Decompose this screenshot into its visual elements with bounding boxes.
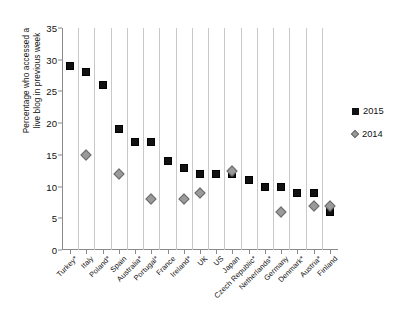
data-point-2015 [82, 68, 90, 76]
vertical-gridline [176, 28, 177, 250]
x-tick-mark [265, 250, 266, 254]
vertical-gridline [224, 28, 225, 250]
legend-label-2014: 2014 [362, 129, 383, 139]
data-point-2015 [277, 183, 285, 191]
y-axis-line [62, 28, 63, 250]
vertical-gridline [127, 28, 128, 250]
x-tick-mark [184, 250, 185, 254]
y-tick-mark [58, 218, 62, 219]
y-tick-mark [58, 123, 62, 124]
vertical-gridline [192, 28, 193, 250]
vertical-gridline [322, 28, 323, 250]
data-point-2015 [164, 157, 172, 165]
x-tick-mark [70, 250, 71, 254]
chart-legend: 2015 2014 [352, 106, 384, 152]
y-tick-mark [58, 28, 62, 29]
y-axis-title-line-2: live blog in previous week [32, 0, 43, 181]
x-tick-mark [232, 250, 233, 254]
data-point-2015 [261, 183, 269, 191]
vertical-gridline [94, 28, 95, 250]
x-tick-mark [119, 250, 120, 254]
y-tick-mark [58, 59, 62, 60]
vertical-gridline [208, 28, 209, 250]
x-tick-mark [103, 250, 104, 254]
vertical-gridline [78, 28, 79, 250]
plot-area: 05101520253035 [62, 28, 338, 250]
legend-entry-2014: 2014 [352, 129, 384, 139]
vertical-gridline [143, 28, 144, 250]
vertical-gridline [241, 28, 242, 250]
x-axis-label: Turkey* [55, 254, 80, 279]
data-point-2015 [212, 170, 220, 178]
data-point-2014 [194, 187, 205, 198]
data-point-2015 [196, 170, 204, 178]
x-tick-mark [168, 250, 169, 254]
y-tick-label: 5 [52, 213, 57, 224]
legend-entry-2015: 2015 [352, 106, 384, 116]
x-tick-mark [249, 250, 250, 254]
x-tick-mark [135, 250, 136, 254]
vertical-gridline [159, 28, 160, 250]
y-tick-label: 0 [52, 245, 57, 256]
vertical-gridline [306, 28, 307, 250]
x-axis-label: UK [196, 254, 210, 268]
y-axis-title-line-1: Percentage who accessed a [22, 0, 33, 181]
vertical-gridline [289, 28, 290, 250]
data-point-2014 [178, 194, 189, 205]
y-tick-mark [58, 154, 62, 155]
data-point-2015 [180, 164, 188, 172]
y-tick-label: 15 [46, 149, 57, 160]
y-tick-mark [58, 186, 62, 187]
data-point-2015 [66, 62, 74, 70]
y-axis-title: Percentage who accessed a live blog in p… [22, 0, 43, 181]
legend-square-icon [352, 108, 359, 115]
data-point-2015 [147, 138, 155, 146]
legend-label-2015: 2015 [363, 106, 384, 116]
y-tick-label: 30 [46, 54, 57, 65]
x-tick-mark [297, 250, 298, 254]
data-point-2015 [293, 189, 301, 197]
data-point-2015 [310, 189, 318, 197]
x-tick-mark [330, 250, 331, 254]
x-tick-mark [200, 250, 201, 254]
y-tick-mark [58, 91, 62, 92]
y-tick-label: 20 [46, 118, 57, 129]
data-point-2015 [99, 81, 107, 89]
y-tick-label: 25 [46, 86, 57, 97]
data-point-2014 [276, 206, 287, 217]
data-point-2014 [113, 168, 124, 179]
data-point-2015 [115, 125, 123, 133]
data-point-2015 [245, 176, 253, 184]
x-tick-mark [86, 250, 87, 254]
y-tick-label: 10 [46, 181, 57, 192]
y-tick-mark [58, 250, 62, 251]
vertical-gridline [111, 28, 112, 250]
vertical-gridline [257, 28, 258, 250]
data-point-2014 [81, 149, 92, 160]
x-tick-mark [151, 250, 152, 254]
x-tick-mark [216, 250, 217, 254]
y-tick-label: 35 [46, 23, 57, 34]
data-point-2015 [131, 138, 139, 146]
vertical-gridline [273, 28, 274, 250]
data-point-2014 [146, 194, 157, 205]
data-point-2014 [308, 200, 319, 211]
x-tick-mark [314, 250, 315, 254]
live-blog-access-chart: Percentage who accessed a live blog in p… [0, 0, 394, 319]
x-tick-mark [281, 250, 282, 254]
legend-diamond-icon [351, 130, 359, 138]
